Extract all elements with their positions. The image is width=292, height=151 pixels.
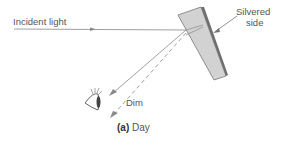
reflected-ray-dim xyxy=(114,33,186,114)
silvered-leader-arrow-icon xyxy=(213,28,220,33)
bright-ray-arrow-icon xyxy=(109,89,117,96)
mirror-glass xyxy=(178,7,226,80)
dim-label: Dim xyxy=(126,97,143,108)
caption-tag: (a) xyxy=(117,122,129,133)
eye-icon xyxy=(85,88,102,110)
incident-arrow-icon xyxy=(90,28,96,32)
figure-caption: (a) Day xyxy=(117,122,150,133)
caption-text: Day xyxy=(132,122,150,133)
silvered-label-line2: side xyxy=(246,17,263,28)
silvered-label-line1: Silvered xyxy=(236,6,270,17)
reflected-ray-bright xyxy=(113,30,186,93)
incident-ray xyxy=(14,29,186,30)
dim-ray-arrow-icon xyxy=(110,111,118,118)
incident-light-label: Incident light xyxy=(13,16,66,27)
